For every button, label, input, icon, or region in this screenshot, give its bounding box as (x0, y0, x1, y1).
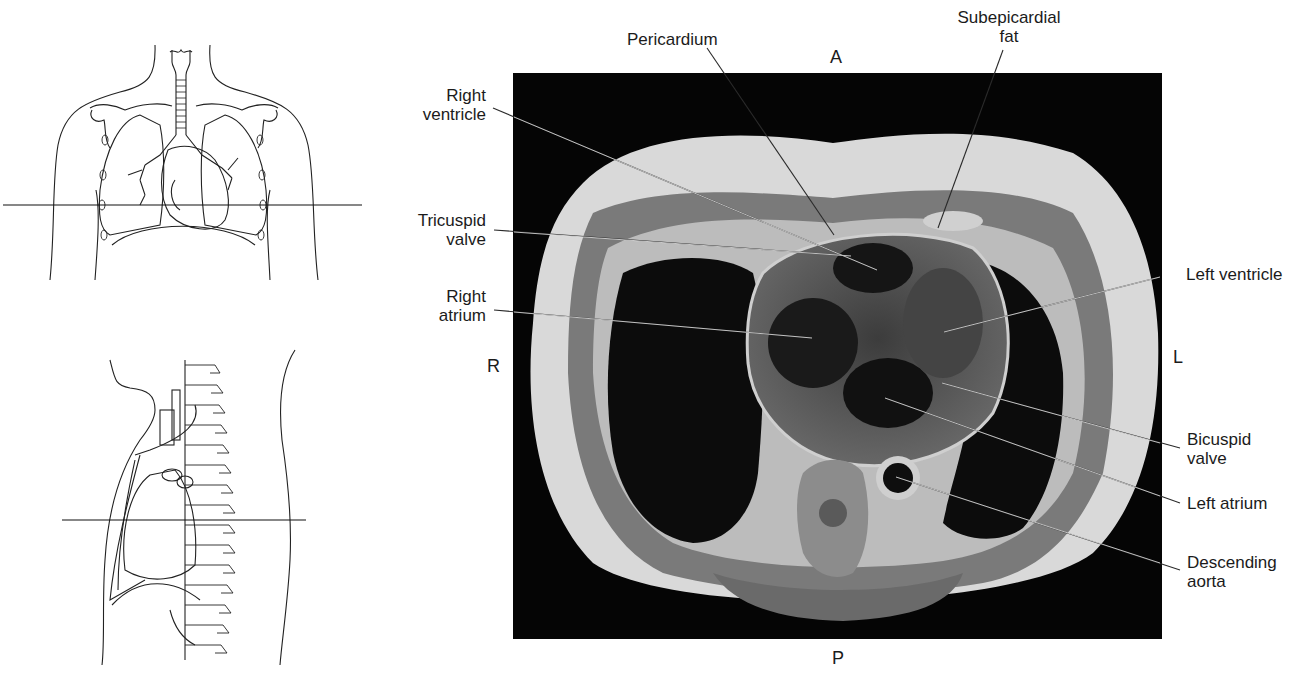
leader-lines (0, 0, 1311, 677)
label-left-atrium: Left atrium (1187, 494, 1267, 513)
label-bicuspid-valve: Bicuspid valve (1187, 430, 1251, 468)
label-pericardium: Pericardium (627, 30, 718, 49)
label-left-ventricle: Left ventricle (1186, 265, 1282, 284)
orientation-right: R (487, 356, 500, 377)
orientation-left: L (1173, 347, 1183, 368)
orientation-anterior: A (830, 47, 842, 68)
label-subepicardial-fat: Subepicardial fat (954, 8, 1064, 46)
label-descending-aorta: Descending aorta (1187, 553, 1277, 591)
orientation-posterior: P (832, 648, 844, 669)
label-right-ventricle: Right ventricle (400, 86, 486, 124)
label-tricuspid-valve: Tricuspid valve (400, 211, 486, 249)
label-right-atrium: Right atrium (400, 287, 486, 325)
